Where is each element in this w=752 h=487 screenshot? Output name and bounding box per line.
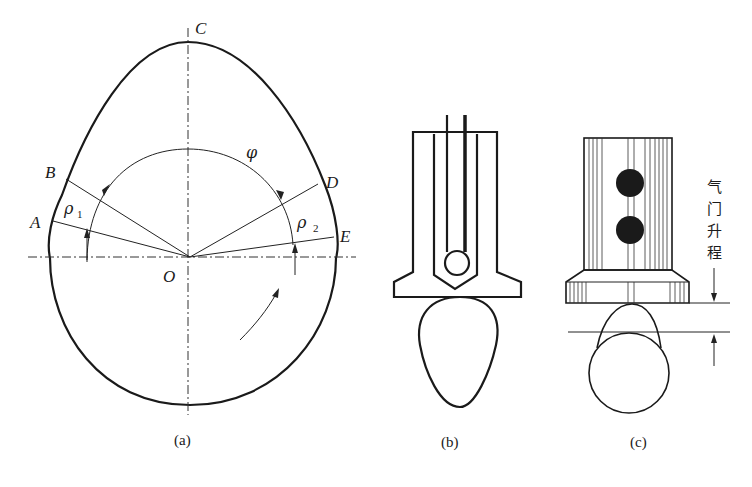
lift-label-char-4: 程	[707, 244, 722, 262]
panel-a-cam-profile: C B A D E O φ ρ 1 ρ 2 (a)	[28, 19, 356, 449]
follower-bore	[434, 134, 477, 289]
phi-arrow-left	[102, 184, 110, 196]
cam-diagram: C B A D E O φ ρ 1 ρ 2 (a) (b)	[0, 0, 752, 487]
phi-arc	[87, 149, 293, 260]
dimension-arrow-up-icon	[711, 334, 717, 343]
point-label-A: A	[29, 213, 41, 232]
panel-b-follower: (b)	[394, 115, 521, 451]
cam-lobe	[597, 304, 661, 348]
ball	[445, 251, 469, 275]
radius-label-rho2-subscript: 2	[313, 222, 319, 234]
line-OE	[190, 237, 334, 257]
line-OB	[66, 179, 190, 257]
tappet-flange	[566, 270, 689, 303]
caption-a: (a)	[174, 432, 191, 449]
point-label-B: B	[45, 163, 56, 182]
cam-b	[419, 297, 497, 407]
line-OA	[53, 221, 190, 257]
panel-c-tappet: 气 门 升 程 (c)	[566, 138, 730, 451]
lift-label-char-1: 气	[707, 178, 722, 196]
point-label-E: E	[339, 227, 351, 246]
radius-label-rho1: ρ	[63, 199, 74, 218]
point-label-O: O	[163, 267, 175, 286]
cam-base-circle	[589, 333, 669, 413]
follower-body	[394, 132, 521, 297]
rotation-arrow-icon	[272, 288, 279, 298]
point-label-C: C	[195, 19, 207, 38]
lift-label-char-2: 门	[707, 200, 722, 218]
dimension-arrow-down-icon	[711, 293, 717, 302]
point-label-D: D	[325, 173, 339, 192]
ball-lower	[616, 216, 644, 244]
caption-b: (b)	[441, 434, 459, 451]
ball-upper	[616, 169, 644, 197]
caption-c: (c)	[630, 434, 647, 451]
radius-label-rho1-subscript: 1	[77, 208, 83, 220]
flange-hatching	[570, 282, 684, 303]
lift-label-char-3: 升	[707, 222, 722, 240]
radius-label-rho2: ρ	[296, 213, 307, 232]
angle-label-phi: φ	[246, 143, 258, 162]
tappet-hatching	[589, 138, 667, 270]
rotation-arrow-shaft	[240, 294, 276, 340]
